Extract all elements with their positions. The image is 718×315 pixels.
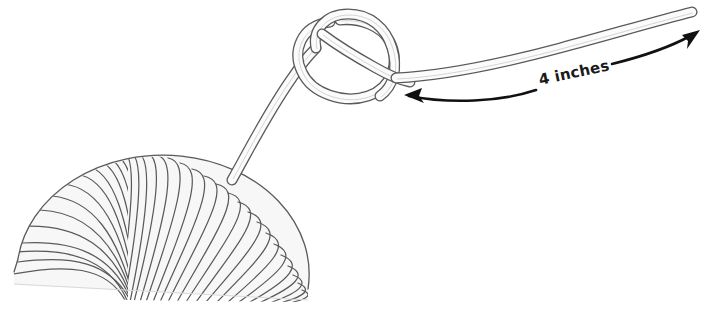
yarn-knot-figure: 4 inches <box>0 0 718 315</box>
figure-canvas: 4 inches <box>0 0 718 315</box>
